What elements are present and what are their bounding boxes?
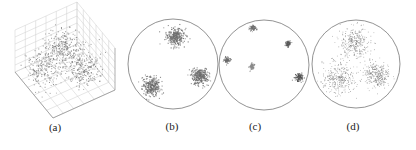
data-point [344,45,345,46]
data-point [159,98,160,99]
data-point [199,74,200,75]
data-point [365,74,366,75]
data-point [354,49,355,50]
data-point [354,40,355,41]
data-point [383,80,384,81]
data-point [330,82,331,83]
data-point [51,38,52,39]
data-point [58,46,59,47]
data-point [94,76,95,77]
data-point [100,54,101,55]
data-point [56,60,57,61]
data-point [372,71,373,72]
data-point [363,75,364,76]
data-point [38,73,39,74]
data-point [359,51,360,52]
data-point [371,77,372,78]
data-point [71,65,72,66]
data-point [367,83,368,84]
data-point [291,42,292,43]
data-point [325,71,326,72]
data-point [381,69,382,70]
data-point [342,86,343,87]
data-point [204,68,205,69]
data-point [253,66,254,67]
data-point [177,38,178,39]
data-point [356,40,357,41]
data-point [369,70,370,71]
data-point [50,30,51,31]
data-point [329,75,330,76]
data-point [84,75,85,76]
floor-edge-left [15,72,53,118]
data-point [170,36,171,37]
data-point [57,51,58,52]
data-point [175,29,176,30]
data-point [376,72,377,73]
data-point [223,59,224,60]
data-point [63,62,64,63]
data-point [173,47,174,48]
data-point [329,92,330,93]
data-point [340,59,341,60]
data-point [80,54,81,55]
data-point [348,49,349,50]
data-point [342,35,343,36]
data-point [301,72,302,73]
data-point [175,47,176,48]
data-point [45,34,46,35]
data-point [360,36,361,37]
data-point [70,47,71,48]
data-point [38,92,39,93]
data-point [387,72,388,73]
data-point [62,48,63,49]
data-point [52,45,53,46]
data-point [76,62,77,63]
data-point [252,68,253,69]
data-point [184,46,185,47]
data-point [341,54,342,55]
data-point [78,73,79,74]
data-point [200,72,201,73]
data-point [294,77,295,78]
data-point [154,96,155,97]
data-point [92,54,93,55]
data-point [50,78,51,79]
data-point [297,80,298,81]
data-point [384,84,385,85]
data-point [350,47,351,48]
data-point [173,40,174,41]
data-point [372,72,373,73]
data-point [354,41,355,42]
data-point [54,46,55,47]
data-point [52,47,53,48]
data-point [61,36,62,37]
data-point [53,73,54,74]
panel-b-points [138,24,211,101]
data-point [196,83,197,84]
data-point [96,61,97,62]
data-point [172,36,173,37]
data-point [174,30,175,31]
data-point [370,80,371,81]
data-point [337,72,338,73]
data-point [343,83,344,84]
data-point [365,29,366,30]
data-point [331,58,332,59]
data-point [344,78,345,79]
data-point [227,56,228,57]
data-point [345,35,346,36]
data-point [46,64,47,65]
data-point [208,80,209,81]
data-point [341,86,342,87]
data-point [82,53,83,54]
data-point [80,65,81,66]
data-point [349,45,350,46]
data-point [148,82,149,83]
data-point [368,68,369,69]
data-point [356,41,357,42]
data-point [301,82,302,83]
data-point [334,88,335,89]
data-point [323,76,324,77]
data-point [84,70,85,71]
